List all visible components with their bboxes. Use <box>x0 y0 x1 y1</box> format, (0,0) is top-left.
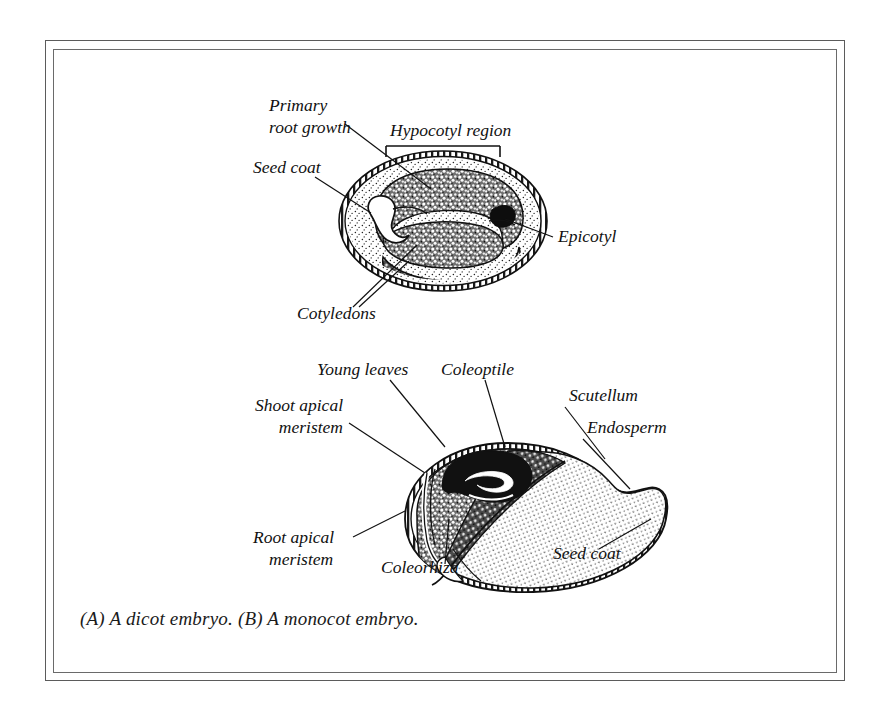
leader-coleoptile <box>485 380 505 447</box>
leader-root-apical-meristem <box>353 511 405 537</box>
label-coleoptile: Coleoptile <box>441 359 514 379</box>
dicot-embryo-group: Primary root growth Seed coat Hypocotyl … <box>253 95 616 323</box>
label-dicot-seed-coat: Seed coat <box>253 157 322 177</box>
figure-page: Primary root growth Seed coat Hypocotyl … <box>0 0 889 713</box>
label-hypocotyl-region: Hypocotyl region <box>389 120 512 140</box>
label-endosperm: Endosperm <box>586 417 667 437</box>
monocot-embryo-group: Young leaves Coleoptile Shoot apical mer… <box>252 359 693 609</box>
label-primary-root-growth-line1: Primary <box>268 95 328 115</box>
figure-caption: (A) A dicot embryo. (B) A monocot embryo… <box>80 608 419 630</box>
label-primary-root-growth-line2: root growth <box>269 117 351 137</box>
label-shoot-apical-meristem-line2: meristem <box>279 417 343 437</box>
embryo-diagram-svg: Primary root growth Seed coat Hypocotyl … <box>53 49 837 673</box>
leader-young-leaves <box>390 380 445 447</box>
dicot-epicotyl-shape <box>490 206 515 228</box>
leader-shoot-apical-meristem <box>349 423 425 473</box>
label-young-leaves: Young leaves <box>317 359 408 379</box>
label-root-apical-meristem-line2: meristem <box>269 549 333 569</box>
label-shoot-apical-meristem-line1: Shoot apical <box>255 395 343 415</box>
label-scutellum: Scutellum <box>569 385 638 405</box>
label-monocot-seed-coat: Seed coat <box>553 543 622 563</box>
label-cotyledons: Cotyledons <box>297 303 376 323</box>
label-root-apical-meristem-line1: Root apical <box>252 527 334 547</box>
label-epicotyl: Epicotyl <box>557 226 616 246</box>
label-coleorhiza: Coleorhiza <box>381 557 459 577</box>
